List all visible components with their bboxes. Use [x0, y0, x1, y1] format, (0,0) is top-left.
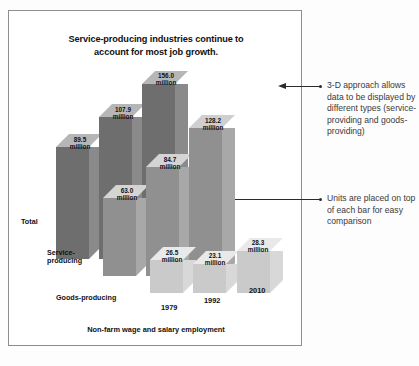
- annotation-units: Units are placed on top of each bar for …: [327, 193, 417, 228]
- chart-title-line-1: Service-producing industries continue to: [27, 33, 285, 46]
- chart-frame: Service-producing industries continue to…: [8, 10, 302, 346]
- depth-label-total: Total: [21, 218, 38, 226]
- screenshot-root: Service-producing industries continue to…: [0, 0, 419, 366]
- annotation-1-arrow-head: [278, 83, 286, 89]
- value-label-service-1992: 84.7million: [150, 156, 190, 171]
- value-label-goods-1979: 26.5million: [152, 249, 192, 264]
- chart-footer-caption: Non-farm wage and salary employment: [9, 325, 303, 334]
- value-label-goods-1992: 23.1million: [195, 252, 235, 267]
- value-label-total-2010: 156.0million: [146, 72, 186, 87]
- annotation-1-anchor-dot: [319, 85, 322, 88]
- depth-label-service-line-2: producing: [47, 256, 82, 265]
- depth-label-goods-producing: Goods-producing: [56, 294, 116, 302]
- value-label-service-2010: 128.2million: [193, 117, 233, 132]
- bar-goods-1992: [193, 264, 226, 293]
- depth-label-service-producing: Service- producing: [47, 249, 82, 266]
- chart-title-line-2: account for most job growth.: [27, 46, 285, 59]
- bar-face-side: [270, 251, 283, 293]
- year-label-2010: 2010: [249, 286, 265, 295]
- year-label-1979: 1979: [161, 303, 177, 312]
- bar-face-front: [56, 147, 89, 259]
- chart-title: Service-producing industries continue to…: [27, 33, 285, 59]
- value-label-service-1979: 63.0million: [107, 187, 147, 202]
- bar-face-front: [103, 198, 136, 276]
- bar-service-1979: [103, 198, 136, 276]
- value-label-goods-2010: 28.3million: [238, 239, 278, 254]
- year-label-1992: 1992: [204, 296, 220, 305]
- annotation-1-leader-line: [285, 86, 321, 87]
- value-label-total-1992: 107.9million: [103, 106, 143, 121]
- bar-face-front: [150, 260, 183, 293]
- bar-face-front: [193, 264, 226, 293]
- bar-goods-1979: [150, 260, 183, 293]
- annotation-3d-approach: 3-D approach allows data to be displayed…: [327, 80, 417, 138]
- value-label-total-1979: 89.5million: [60, 136, 100, 151]
- bar-total-1979: [56, 147, 89, 259]
- annotation-2-anchor-dot: [319, 198, 322, 201]
